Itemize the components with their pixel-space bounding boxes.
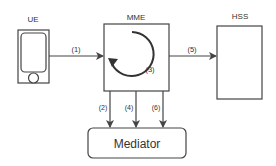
diagram-canvas: UE (1) MME (3) (5) HSS (2) (4) (6)	[0, 0, 276, 166]
mediator-label: Mediator	[114, 137, 161, 151]
edge-3-label: (3)	[145, 65, 155, 74]
mme-node: MME (3)	[104, 13, 169, 91]
hss-node: HSS	[217, 12, 262, 99]
edge-1: (1)	[49, 45, 103, 56]
edge-6-label: (6)	[152, 104, 161, 112]
ue-home-button-icon	[29, 73, 39, 83]
mme-box	[104, 24, 169, 91]
edge-5-label: (5)	[187, 45, 197, 54]
edge-4-label: (4)	[125, 104, 134, 112]
edge-2-label: (2)	[99, 104, 108, 112]
mediator-node: Mediator	[88, 128, 186, 158]
hss-label: HSS	[232, 12, 248, 21]
ue-screen-icon	[21, 33, 46, 72]
mme-label: MME	[127, 13, 146, 22]
edge-4: (4)	[125, 91, 136, 127]
edge-5: (5)	[169, 45, 216, 56]
hss-box	[217, 26, 262, 99]
edge-6: (6)	[152, 91, 163, 127]
ue-label: UE	[27, 15, 38, 24]
edge-2: (2)	[99, 91, 110, 127]
edge-1-label: (1)	[71, 45, 81, 54]
ue-node: UE	[18, 15, 49, 83]
